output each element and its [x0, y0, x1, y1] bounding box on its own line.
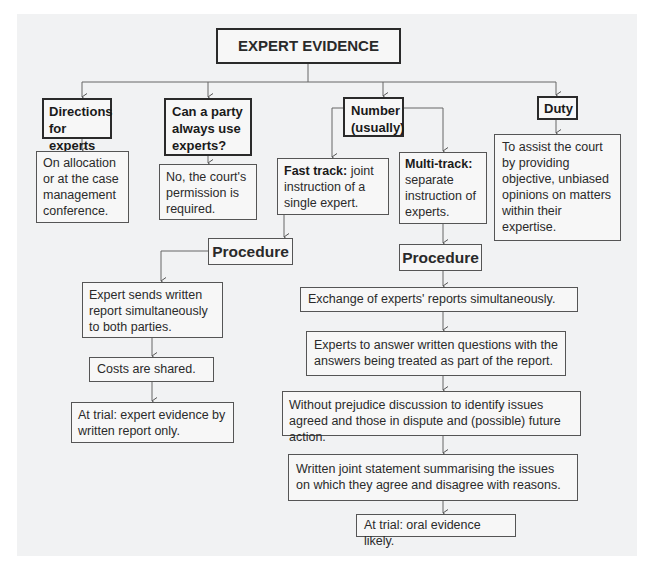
directions-detail: On allocation or at the case management … [43, 156, 119, 218]
number-heading-box: Number (usually) [343, 97, 404, 137]
fast-procedure-heading-box: Procedure [208, 238, 293, 265]
duty-heading-box: Duty [537, 96, 578, 120]
multi-step-5: At trial: oral evidence likely. [356, 514, 516, 537]
multi-step-3: Without prejudice discussion to identify… [282, 391, 581, 436]
directions-heading-box: Directions for experts [42, 98, 112, 139]
fast-step-1-text: Expert sends written report simultaneous… [89, 288, 208, 334]
fast-procedure-heading: Procedure [212, 244, 289, 260]
can-party-heading-box: Can a party always use experts? [164, 98, 252, 156]
duty-detail: To assist the court by providing objecti… [502, 140, 611, 234]
multi-step-4: Written joint statement summarising the … [288, 454, 578, 501]
multi-step-2: Experts to answer written questions with… [306, 331, 566, 376]
fast-track-box: Fast track: joint instruction of a singl… [277, 158, 389, 215]
title-box: EXPERT EVIDENCE [216, 28, 401, 64]
title-text: EXPERT EVIDENCE [238, 38, 379, 54]
multi-procedure-heading: Procedure [402, 250, 479, 266]
can-party-heading: Can a party always use experts? [172, 104, 243, 153]
multi-track-label: Multi-track: [405, 157, 472, 171]
multi-step-1: Exchange of experts' reports simultaneou… [300, 287, 578, 312]
multi-procedure-heading-box: Procedure [399, 244, 482, 271]
fast-track-label: Fast track: [284, 164, 347, 178]
can-party-detail-box: No, the court's permission is required. [159, 164, 257, 220]
fast-step-1: Expert sends written report simultaneous… [82, 282, 223, 338]
fast-step-2: Costs are shared. [89, 357, 214, 382]
can-party-detail: No, the court's permission is required. [166, 170, 246, 216]
fast-step-3-text: At trial: expert evidence by written rep… [78, 408, 225, 438]
fast-step-2-text: Costs are shared. [97, 362, 196, 376]
multi-step-1-text: Exchange of experts' reports simultaneou… [308, 292, 555, 306]
multi-step-2-text: Experts to answer written questions with… [314, 338, 558, 368]
fast-step-3: At trial: expert evidence by written rep… [71, 402, 234, 443]
number-heading: Number (usually) [351, 103, 404, 135]
duty-detail-box: To assist the court by providing objecti… [494, 134, 621, 241]
multi-track-box: Multi-track: separate instruction of exp… [399, 152, 487, 224]
duty-heading: Duty [544, 101, 573, 116]
multi-step-4-text: Written joint statement summarising the … [296, 462, 561, 492]
directions-detail-box: On allocation or at the case management … [36, 151, 129, 223]
multi-track-text: separate instruction of experts. [405, 173, 476, 219]
